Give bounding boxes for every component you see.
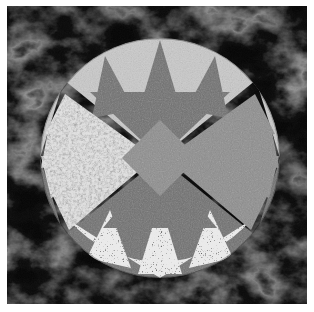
quilt-block-svg xyxy=(7,6,307,304)
quilt-artwork-frame xyxy=(0,0,314,312)
quilt-canvas xyxy=(7,6,307,304)
global-grain-overlay xyxy=(7,6,307,304)
